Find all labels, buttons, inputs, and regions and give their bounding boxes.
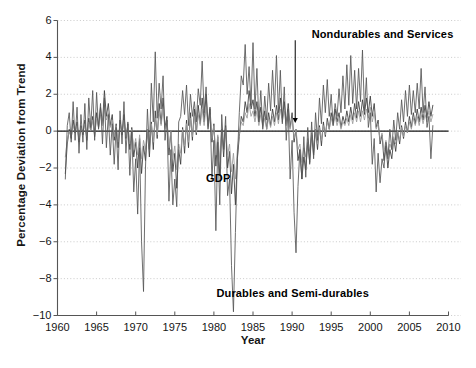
- y-tick-label: −10: [18, 310, 52, 321]
- x-axis-label: Year: [57, 334, 449, 346]
- y-tick-label: −8: [18, 273, 52, 284]
- annotation-durables-and-semi-durables: Durables and Semi-durables: [216, 287, 368, 299]
- chart-figure: Percentage Deviation from Trend Year −10…: [0, 0, 476, 368]
- y-tick-label: −4: [18, 199, 52, 210]
- chart-plot-svg: [0, 0, 476, 368]
- y-tick-label: 2: [18, 88, 52, 99]
- y-tick-label: 6: [18, 15, 52, 26]
- data-series-group: [65, 43, 433, 312]
- y-tick-label: −2: [18, 162, 52, 173]
- y-tick-label: −6: [18, 236, 52, 247]
- annotation-arrows: [293, 40, 298, 123]
- y-tick-label: 0: [18, 125, 52, 136]
- x-tick-label: 2010: [426, 322, 472, 333]
- annotation-gdp: GDP: [206, 172, 230, 184]
- y-tick-label: 4: [18, 51, 52, 62]
- annotation-nondurables-and-services: Nondurables and Services: [312, 28, 454, 40]
